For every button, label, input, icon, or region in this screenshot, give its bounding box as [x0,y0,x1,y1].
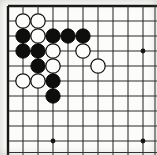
white-stone [76,44,90,58]
white-stone [31,29,45,43]
white-stone [91,59,105,73]
black-stone [31,44,45,58]
star-point [51,139,56,144]
go-board-svg [0,0,157,155]
black-stone [76,29,90,43]
go-board-diagram[interactable] [0,0,157,155]
black-stone [46,89,60,103]
black-stone [46,74,60,88]
white-stone [16,14,30,28]
black-stone [16,29,30,43]
black-stone [61,29,75,43]
white-stone [46,59,60,73]
black-stone [31,59,45,73]
star-point [141,139,146,144]
white-stone [31,74,45,88]
black-stone [46,29,60,43]
white-stone [31,14,45,28]
white-stone [46,44,60,58]
black-stone [16,44,30,58]
star-point [141,49,146,54]
white-stone [16,74,30,88]
